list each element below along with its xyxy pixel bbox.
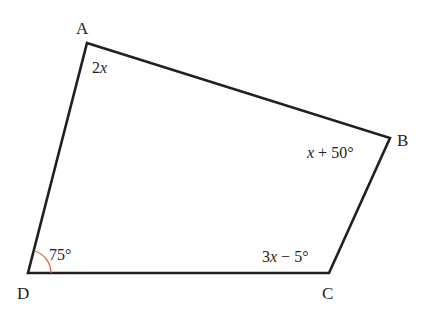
vertex-label-d: D	[17, 284, 29, 303]
quadrilateral-diagram: A B C D 2x x + 50° 3x − 5° 75°	[0, 0, 429, 309]
angle-label-d: 75°	[49, 246, 71, 263]
angle-label-b: x + 50°	[306, 144, 354, 161]
vertex-label-c: C	[322, 284, 333, 303]
angle-label-c: 3x − 5°	[262, 248, 309, 265]
vertex-label-a: A	[76, 19, 89, 38]
vertex-label-b: B	[397, 131, 408, 150]
angle-label-a: 2x	[92, 59, 107, 76]
